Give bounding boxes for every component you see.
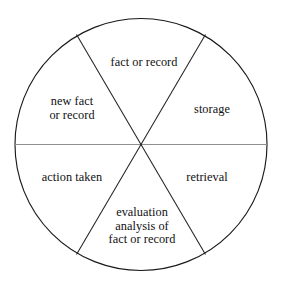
wheel-graphic bbox=[0, 0, 282, 288]
information-cycle-diagram: fact or record storage retrieval evaluat… bbox=[0, 0, 282, 288]
